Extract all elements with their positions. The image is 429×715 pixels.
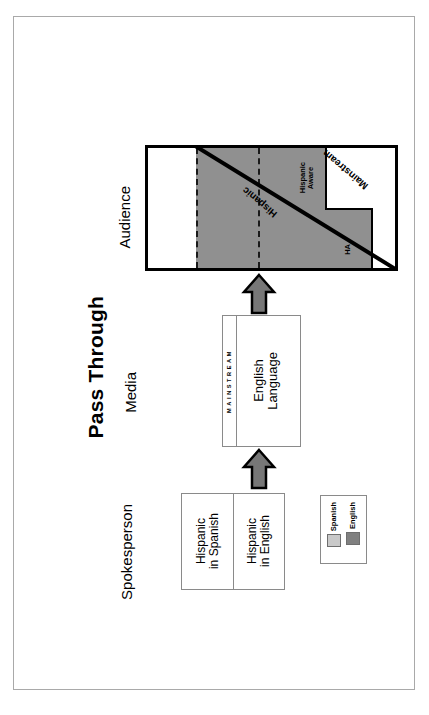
slide-frame: Pass Through Audience Media Spokesperson	[13, 16, 415, 690]
spokesperson-cell-spanish: Hispanic in Spanish	[182, 494, 234, 589]
stage-label-media-text: Media	[123, 372, 139, 413]
stage-label-media: Media	[118, 347, 144, 437]
legend-swatch-spanish	[327, 534, 341, 547]
audience-label-ha: HA	[344, 244, 352, 257]
media-mainstream-strip: MAINSTREAM	[223, 316, 237, 446]
stage-label-spokesperson: Spokesperson	[114, 487, 140, 617]
spokesperson-cell-english: Hispanic in English	[234, 494, 285, 589]
legend-swatch-english	[346, 532, 360, 545]
legend-label-spanish: Spanish	[330, 502, 338, 531]
audience-box-inner: Spanish Bilingual English Hispanic Aware…	[148, 148, 395, 268]
arrow-media-to-audience	[240, 273, 278, 319]
diagram-page: Pass Through Audience Media Spokesperson	[0, 0, 429, 715]
legend-item-english: English	[346, 502, 360, 545]
stage-label-audience: Audience	[112, 165, 138, 269]
media-box-label: English Language	[237, 316, 295, 446]
page-title: Pass Through	[76, 292, 116, 442]
audience-box: Spanish Bilingual English Hispanic Aware…	[145, 145, 398, 271]
arrow-spokesperson-to-media	[240, 448, 278, 494]
page-title-text: Pass Through	[85, 296, 107, 438]
audience-label-hispanic-aware: Hispanic Aware	[290, 162, 324, 195]
stage-label-audience-text: Audience	[117, 186, 133, 249]
stage-label-spokesperson-text: Spokesperson	[119, 504, 135, 600]
legend: Spanish English	[320, 495, 367, 564]
legend-item-spanish: Spanish	[327, 502, 341, 547]
legend-label-english: English	[349, 502, 357, 529]
spokesperson-box: Hispanic in Spanish Hispanic in English	[181, 493, 285, 590]
media-box: MAINSTREAM English Language	[222, 315, 301, 447]
media-strip-letters: MAINSTREAM	[227, 349, 233, 413]
